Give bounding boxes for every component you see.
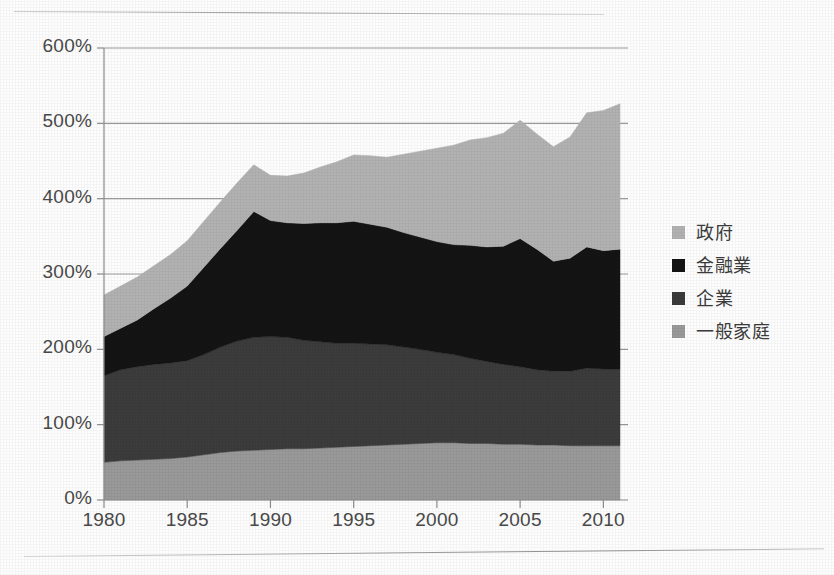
legend-item[interactable]: 金融業 bbox=[672, 249, 822, 282]
legend-item-label: 企業 bbox=[696, 290, 733, 308]
x-axis-label-2000: 2000 bbox=[415, 509, 458, 531]
legend-swatch-household bbox=[672, 325, 685, 338]
legend-item[interactable]: 企業 bbox=[672, 282, 822, 315]
legend-item-label: 一般家庭 bbox=[696, 323, 770, 341]
legend-item[interactable]: 一般家庭 bbox=[672, 315, 822, 348]
legend-item[interactable]: 政府 bbox=[672, 216, 822, 249]
legend-swatch-government bbox=[672, 226, 685, 239]
x-axis-label-1985: 1985 bbox=[166, 509, 209, 531]
legend-swatch-financial bbox=[672, 259, 685, 272]
legend-item-label: 政府 bbox=[696, 224, 733, 242]
stacked-area-chart: 600%500%400%300%200%100%0% 1980198519901… bbox=[0, 0, 834, 575]
chart-legend: 政府金融業企業一般家庭 bbox=[672, 216, 822, 348]
x-axis-label-1990: 1990 bbox=[249, 509, 292, 531]
x-axis-label-1995: 1995 bbox=[332, 509, 375, 531]
legend-swatch-corporate bbox=[672, 292, 685, 305]
legend-item-label: 金融業 bbox=[696, 257, 752, 275]
x-axis-label-2010: 2010 bbox=[582, 509, 625, 531]
chart-page: 600%500%400%300%200%100%0% 1980198519901… bbox=[0, 0, 834, 575]
x-axis-label-2005: 2005 bbox=[499, 509, 542, 531]
x-axis-label-1980: 1980 bbox=[82, 509, 125, 531]
